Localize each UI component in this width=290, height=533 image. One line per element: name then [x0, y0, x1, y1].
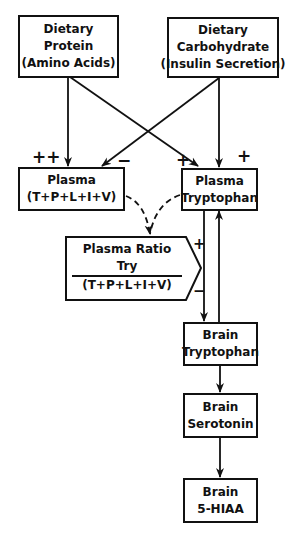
node-label-line: Brain: [203, 399, 239, 416]
node-label-line: Protein: [44, 38, 94, 55]
node-label-line: Brain: [203, 327, 239, 344]
node-label-line: (Insulin Secretion): [160, 56, 285, 73]
sign-protein-to-plasma: ++: [32, 149, 61, 166]
ratio-numerator: Try: [68, 258, 186, 275]
node-label-line: Brain: [203, 484, 239, 501]
node-brain-5hiaa: Brain 5-HIAA: [183, 478, 258, 523]
dashed-arrow-plasma-to-ratio: [126, 196, 150, 234]
node-label-line: Tryptophan: [181, 190, 258, 207]
node-brain-serotonin: Brain Serotonin: [183, 393, 258, 438]
node-label-line: Plasma: [195, 173, 244, 190]
node-dietary-protein: Dietary Protein (Amino Acids): [18, 15, 119, 78]
node-plasma-ratio: Plasma Ratio Try (T+P+L+I+V): [68, 241, 186, 294]
node-label-line: Tryptophan: [182, 344, 259, 361]
node-brain-tryptophan: Brain Tryptophan: [183, 322, 258, 366]
node-label-line: 5-HIAA: [197, 501, 243, 518]
sign-carb-to-plasma: −: [117, 152, 131, 169]
ratio-denominator: (T+P+L+I+V): [68, 277, 186, 294]
node-label-line: Serotonin: [187, 416, 253, 433]
node-label-line: Carbohydrate: [177, 39, 270, 56]
node-label-line: Dietary: [44, 21, 94, 38]
node-plasma-lnaa: Plasma (T+P+L+I+V): [18, 167, 125, 211]
ratio-title: Plasma Ratio: [68, 241, 186, 258]
node-label-line: (Amino Acids): [21, 55, 115, 72]
sign-ratio-plus: +: [193, 236, 206, 253]
node-label-line: Plasma: [47, 172, 96, 189]
sign-carb-to-tryptophan: +: [237, 148, 251, 165]
node-plasma-tryptophan: Plasma Tryptophan: [181, 168, 258, 211]
sign-protein-to-tryptophan: +: [176, 152, 190, 169]
node-label-line: (T+P+L+I+V): [27, 189, 117, 206]
node-dietary-carbohydrate: Dietary Carbohydrate (Insulin Secretion): [167, 17, 279, 78]
sign-ratio-minus: −: [193, 283, 206, 300]
dashed-arrow-tryptophan-to-ratio: [150, 195, 180, 234]
node-label-line: Dietary: [198, 22, 248, 39]
